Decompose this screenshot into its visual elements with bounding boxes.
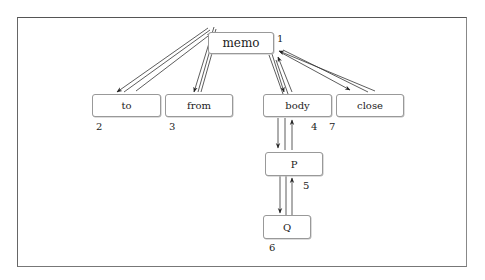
node-body-order: 4 [311, 121, 317, 132]
node-memo-order: 1 [277, 33, 283, 44]
node-q-label: Q [283, 222, 291, 233]
node-to-order: 2 [96, 121, 102, 132]
node-p: P [265, 152, 323, 176]
node-body: body [263, 94, 332, 117]
node-close: close [336, 94, 404, 117]
node-memo: memo [208, 32, 274, 54]
edge-memo-close-down [280, 52, 350, 90]
node-from-order: 3 [169, 121, 175, 132]
node-close-label: close [357, 100, 383, 111]
node-from-label: from [187, 100, 211, 111]
node-to-label: to [121, 100, 131, 111]
node-p-order: 5 [303, 180, 309, 191]
node-close-order: 7 [329, 121, 335, 132]
edge-memo-close-mid [283, 50, 368, 92]
edge-memo-to-down [117, 28, 208, 92]
node-memo-label: memo [222, 36, 259, 50]
node-q-order: 6 [269, 242, 275, 253]
node-q: Q [263, 215, 311, 239]
node-p-label: P [291, 159, 298, 170]
edge-memo-body-down [272, 54, 284, 92]
node-body-label: body [285, 100, 309, 111]
node-from: from [165, 94, 233, 117]
node-to: to [92, 94, 161, 117]
edge-memo-close-up [279, 51, 375, 91]
